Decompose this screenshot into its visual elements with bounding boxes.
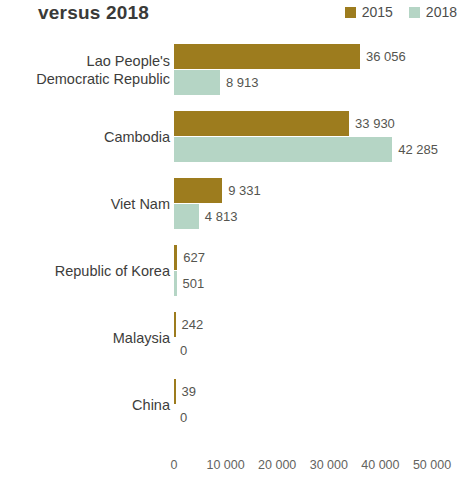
x-axis-tick-label: 0 xyxy=(171,458,178,472)
chart-header: versus 2018 2015 2018 xyxy=(0,0,465,32)
legend-swatch-2018 xyxy=(409,7,420,18)
x-axis-tick-label: 20 000 xyxy=(258,458,296,472)
bar-value-label: 42 285 xyxy=(398,142,438,157)
bar-2015[interactable] xyxy=(174,44,360,69)
bar-value-label: 0 xyxy=(180,343,187,358)
x-axis-tick-label: 30 000 xyxy=(310,458,348,472)
bar-row-2015: 9 331 xyxy=(174,178,261,203)
legend-label-2018: 2018 xyxy=(426,4,457,20)
bar-value-label: 0 xyxy=(180,410,187,425)
bar-value-label: 627 xyxy=(183,250,205,265)
bar-row-2015: 36 056 xyxy=(174,44,406,69)
bar-row-2018: 4 813 xyxy=(174,204,237,229)
bar-value-label: 8 913 xyxy=(226,75,259,90)
x-axis-tick-label: 10 000 xyxy=(206,458,244,472)
category-label: Viet Nam xyxy=(10,195,170,213)
bar-value-label: 9 331 xyxy=(228,183,261,198)
bar-2018[interactable] xyxy=(174,204,199,229)
category-label: Lao People's Democratic Republic xyxy=(10,52,170,88)
bar-group: Malaysia2420 xyxy=(0,312,465,364)
category-label: Republic of Korea xyxy=(10,262,170,280)
legend-label-2015: 2015 xyxy=(362,4,393,20)
bar-value-label: 36 056 xyxy=(366,49,406,64)
bar-row-2015: 33 930 xyxy=(174,111,395,136)
bar-value-label: 33 930 xyxy=(355,116,395,131)
x-axis: 010 00020 00030 00040 00050 000 xyxy=(0,458,465,488)
legend-swatch-2015 xyxy=(345,7,356,18)
category-label: Malaysia xyxy=(10,329,170,347)
bar-2015[interactable] xyxy=(174,245,177,270)
chart-legend: 2015 2018 xyxy=(345,4,457,20)
bar-2018[interactable] xyxy=(174,271,177,296)
bar-group: China390 xyxy=(0,379,465,431)
bar-row-2018: 42 285 xyxy=(174,137,438,162)
bar-2018[interactable] xyxy=(174,137,392,162)
category-label: Cambodia xyxy=(10,128,170,146)
bar-group: Cambodia33 93042 285 xyxy=(0,111,465,163)
bar-group: Lao People's Democratic Republic36 0568 … xyxy=(0,44,465,96)
bar-row-2018: 8 913 xyxy=(174,70,259,95)
bar-2015[interactable] xyxy=(174,111,349,136)
bar-2015[interactable] xyxy=(174,178,222,203)
bar-value-label: 39 xyxy=(182,384,196,399)
bar-2018[interactable] xyxy=(174,70,220,95)
bar-row-2018: 0 xyxy=(174,405,187,430)
x-axis-tick-label: 40 000 xyxy=(361,458,399,472)
bar-2015[interactable] xyxy=(174,379,176,404)
legend-item-2018[interactable]: 2018 xyxy=(409,4,457,20)
category-label: China xyxy=(10,396,170,414)
bar-value-label: 4 813 xyxy=(205,209,238,224)
bar-group: Republic of Korea627501 xyxy=(0,245,465,297)
bar-row-2018: 0 xyxy=(174,338,187,363)
bar-2015[interactable] xyxy=(174,312,176,337)
bar-row-2015: 627 xyxy=(174,245,205,270)
x-axis-tick-label: 50 000 xyxy=(413,458,451,472)
plot-area: Lao People's Democratic Republic36 0568 … xyxy=(0,44,465,454)
bar-row-2018: 501 xyxy=(174,271,204,296)
page-title: versus 2018 xyxy=(38,2,149,24)
legend-item-2015[interactable]: 2015 xyxy=(345,4,393,20)
bar-group: Viet Nam9 3314 813 xyxy=(0,178,465,230)
bar-row-2015: 242 xyxy=(174,312,203,337)
bar-row-2015: 39 xyxy=(174,379,196,404)
bar-value-label: 501 xyxy=(183,276,205,291)
bar-value-label: 242 xyxy=(182,317,204,332)
